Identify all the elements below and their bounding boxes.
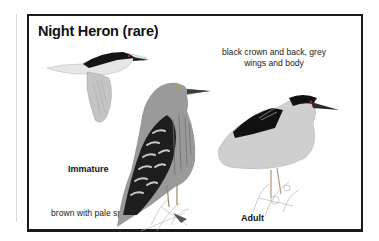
immature-heron-illustration xyxy=(111,75,221,235)
card-title: Night Heron (rare) xyxy=(38,23,158,39)
id-card-frame: Night Heron (rare) black crown and back,… xyxy=(27,14,363,232)
page-edge-line xyxy=(16,14,17,222)
adult-description: black crown and back, grey wings and bod… xyxy=(199,47,349,69)
adult-heron-illustration xyxy=(209,88,349,218)
adult-description-line-2: wings and body xyxy=(199,58,349,69)
adult-description-line-1: black crown and back, grey xyxy=(199,47,349,58)
immature-label: Immature xyxy=(68,164,109,174)
